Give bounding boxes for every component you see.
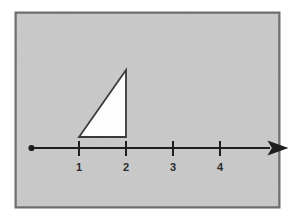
panel-background bbox=[16, 13, 280, 208]
tick-label-1: 1 bbox=[76, 161, 82, 173]
tick-label-4: 4 bbox=[217, 161, 224, 173]
tick-label-2: 2 bbox=[123, 161, 129, 173]
number-line-figure: 1 2 3 4 bbox=[0, 0, 293, 215]
number-line-start-dot bbox=[28, 145, 34, 151]
figure-panel bbox=[16, 13, 280, 208]
tick-label-3: 3 bbox=[170, 161, 176, 173]
figure-root: 1 2 3 4 bbox=[0, 0, 293, 215]
